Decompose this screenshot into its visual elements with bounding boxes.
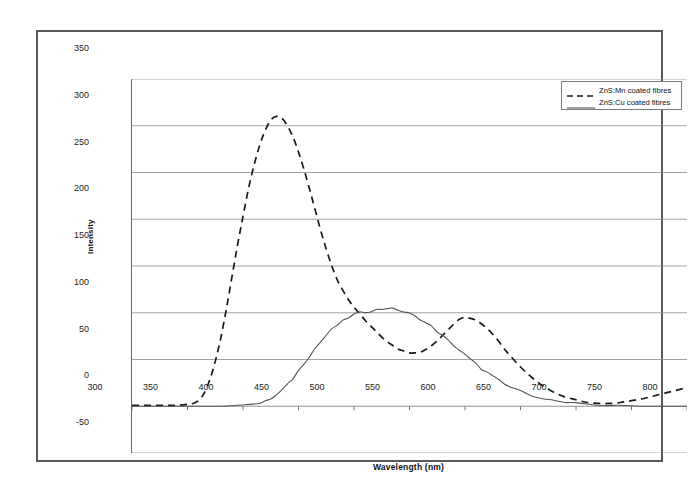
x-tick-label: 600 [412,382,444,392]
x-tick-label: 550 [357,382,389,392]
y-tick-label: 250 [53,137,89,147]
legend-entry-2[interactable]: ZnS:Cu coated fibres [566,97,677,108]
x-tick-label: 650 [468,382,500,392]
x-axis-title: Wavelength (nm) [131,462,686,472]
x-tick-label: 500 [301,382,333,392]
y-tick-label: 100 [53,277,89,287]
y-tick-label: 150 [53,230,89,240]
legend-entry-1[interactable]: ZnS:Mn coated fibres [566,85,677,96]
x-tick-label: 800 [634,382,666,392]
legend-line-swatch [566,98,596,107]
plot-area [131,79,686,453]
y-tick-label: 0 [53,370,89,380]
y-tick-label: 50 [53,324,89,334]
gridlines [132,79,687,453]
x-tick-label: 400 [190,382,222,392]
chart-legend: ZnS:Mn coated fibresZnS:Cu coated fibres [561,81,682,110]
legend-label: ZnS:Mn coated fibres [596,86,671,95]
legend-line-swatch [566,86,596,95]
x-tick-label: 300 [79,382,111,392]
series-line-1 [132,116,687,405]
x-tick-label: 350 [135,382,167,392]
y-tick-label: -50 [53,417,89,427]
figure-border: Intensity -50050100150200250300350300350… [36,30,663,462]
y-tick-label: 300 [53,90,89,100]
y-tick-label: 200 [53,183,89,193]
x-tick-label: 450 [246,382,278,392]
figure-canvas: Intensity -50050100150200250300350300350… [0,0,698,491]
legend-label: ZnS:Cu coated fibres [596,98,670,107]
x-tick-label: 700 [523,382,555,392]
y-tick-label: 350 [53,43,89,53]
x-tick-label: 750 [579,382,611,392]
data-series-group [132,116,687,406]
plot-svg [132,79,687,453]
